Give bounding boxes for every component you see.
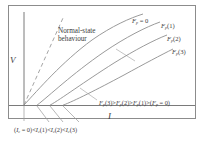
curve-label-fp-3-tail: (3) <box>178 48 186 55</box>
curve-fp-2 <box>50 35 167 105</box>
normal-state-annotation: Normal-state behaviour <box>58 28 96 44</box>
curve-label-fp-2: Fp(2) <box>167 35 181 43</box>
curve-label-fp-0-tail: = 0 <box>138 17 148 24</box>
normal-state-line-2: behaviour <box>58 36 96 44</box>
curve-label-fp-3: Fp(3) <box>172 48 186 56</box>
ic-leader-1 <box>37 106 49 122</box>
curve-label-fp-1-tail: (1) <box>167 22 175 29</box>
curve-label-fp-1: Fp(1) <box>161 22 175 30</box>
ordering-leader <box>80 88 97 100</box>
curve-fp-3 <box>63 49 173 105</box>
x-axis-label: I <box>108 112 111 122</box>
y-axis-label: V <box>10 56 16 66</box>
curve-label-fp-2-tail: (2) <box>173 35 181 42</box>
fp-ordering-annotation: Fp(3)>Fp(2)>Fp(1)>(Fp = 0) <box>99 100 170 107</box>
ic-leader-3 <box>63 106 79 122</box>
ic-ordering-annotation: (Ic = 0)<Ic(1)<Ic(2)<Ic(3) <box>14 127 77 134</box>
normal-state-leader <box>116 49 135 61</box>
ic-leader-2 <box>50 106 63 122</box>
figure-panel: V I Normal-state behaviour Fp = 0 Fp(1) … <box>0 0 204 144</box>
curve-label-fp-0: Fp = 0 <box>132 17 148 25</box>
